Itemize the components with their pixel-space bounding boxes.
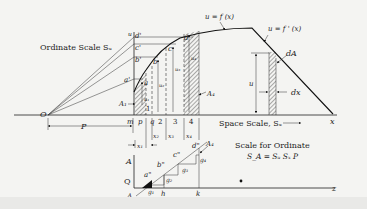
label-a-prime: a' [124,76,130,84]
strip-4-hatch [184,31,199,115]
label-g3: g₃ [182,166,189,174]
curve-f [134,28,333,114]
strip-dA-hatch [269,52,276,115]
label-a: a [144,79,148,87]
label-u-axis: u [128,30,132,37]
tick-p: p [138,118,143,126]
label-u3: u₃ [175,66,180,72]
label-origin: O [40,110,47,119]
label-d-prime: d' [135,32,141,40]
label-b-prime: b' [135,56,141,64]
label-u4: u₄ [191,55,196,61]
label-curve-f: u = f (x) [205,13,234,21]
label-b: b [153,58,158,66]
label-a-dblprime: a" [144,171,151,179]
label-c: c [168,45,172,53]
label-u1: u₁ [144,96,149,102]
label-dx: dx [291,88,301,97]
label-d-dblprime: d" [192,142,200,150]
graphical-integration-diagram: Ordinate Scale Sᵤ O P u d' c' b' a' a b … [0,0,367,209]
leader-f [220,22,225,30]
label-A4: A₄ [206,90,215,98]
label-A-bottom: A [127,192,132,198]
tick-3: 3 [173,118,177,126]
label-u2: u₂ [159,82,164,88]
label-scale-formula: S_A = Sᵤ Sₓ P [247,152,299,161]
leader-fprime [264,35,268,42]
label-x1: x₁ [137,142,143,149]
g1-fill [142,180,152,188]
label-A-axis: A [125,157,132,166]
label-dA: dA [286,49,297,58]
dot-marker [240,180,243,183]
label-d: d [184,34,189,42]
leader-A4 [199,92,206,95]
label-z-axis: z [331,184,337,193]
label-k: k [196,190,200,198]
label-c-prime: c' [135,44,141,52]
label-curve-fprime: u = f ' (x) [268,25,301,33]
label-A1: A₁ [118,100,127,108]
label-strip-1: 1 [146,105,150,113]
tick-4: 4 [189,118,194,126]
label-x4: x₄ [186,132,192,139]
label-ordinate-scale: Ordinate Scale Sᵤ [40,43,113,52]
label-x2: x₂ [153,132,159,139]
tick-2: 2 [158,118,162,126]
label-P: P [80,122,87,131]
label-c-dblprime: c" [173,151,180,159]
label-A4-lower: A₄ [205,140,214,148]
label-g1: g₁ [148,188,154,196]
tick-q: q [150,118,155,126]
label-g4: g₄ [200,156,207,164]
label-h: h [161,190,166,198]
label-Q: Q [124,177,131,186]
label-x-axis: x [330,117,335,126]
label-u-height: u [249,80,254,88]
tick-m: m [127,118,134,126]
label-space-scale: Space Scale, Sₓ [219,119,282,128]
label-g2: g₂ [166,176,173,184]
label-scale-for-ordinate: Scale for Ordinate [235,141,310,150]
label-x3: x₃ [168,132,174,139]
label-b-dblprime: b" [157,161,165,169]
